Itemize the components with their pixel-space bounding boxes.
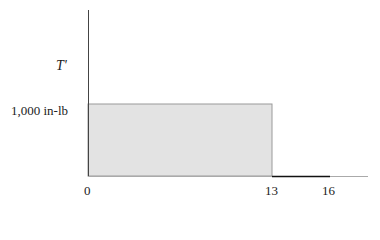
x-tick-16: 16 [322, 183, 335, 199]
y-tick-label: 1,000 in-lb [11, 103, 68, 119]
y-axis-label: T' [56, 58, 67, 74]
torque-region [88, 104, 272, 176]
x-tick-13: 13 [265, 183, 278, 199]
x-tick-0: 0 [84, 183, 91, 199]
